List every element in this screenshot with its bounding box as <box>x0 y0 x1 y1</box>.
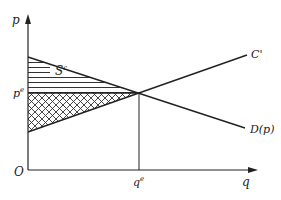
origin-label: O <box>14 165 24 179</box>
supply-curve-label: C' <box>251 48 262 61</box>
x-axis-label: q <box>242 175 250 189</box>
equilibrium-quantity-label: qe <box>133 175 144 189</box>
demand-curve-label: D(p) <box>249 123 274 136</box>
equilibrium-price-label: pe <box>13 86 24 100</box>
y-axis-arrow-icon <box>25 14 31 24</box>
surplus-diagram: p q O pe qe Sc C' D(p) <box>0 0 281 200</box>
x-axis-arrow-icon <box>248 167 258 173</box>
y-axis-label: p <box>12 13 20 27</box>
